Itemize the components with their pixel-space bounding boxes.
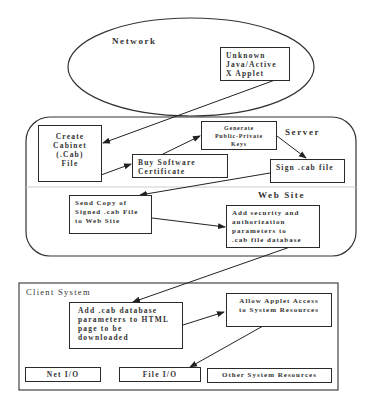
edge-add-cab-to-allow bbox=[183, 312, 224, 325]
node-generate-keys: Generate Public-Private Keys bbox=[201, 121, 277, 150]
node-send-copy: Send Copy of Signed .cab File to Web Sit… bbox=[69, 195, 152, 234]
node-other-resources: Other System Resources bbox=[207, 368, 332, 383]
server-label: Server bbox=[285, 127, 320, 137]
node-add-cab-params: Add .cab database parameters to HTML pag… bbox=[69, 302, 183, 349]
edge-allow-to-file-io bbox=[190, 326, 263, 367]
network-label: Network bbox=[112, 36, 157, 46]
node-allow-access: Allow Applet Access to System Resources bbox=[226, 293, 332, 327]
edge-generate-to-sign bbox=[277, 136, 306, 158]
edge-create-to-buy bbox=[101, 164, 131, 175]
node-buy-cert: Buy Software Certificate bbox=[132, 154, 228, 178]
client-system-label: Client System bbox=[26, 287, 91, 297]
website-label: Web Site bbox=[258, 190, 305, 200]
edge-send-to-add-security bbox=[152, 218, 225, 227]
node-add-security: Add security and authorization parameter… bbox=[226, 205, 320, 248]
node-sign-cab: Sign .cab file bbox=[270, 159, 345, 183]
edge-buy-to-generate bbox=[163, 136, 200, 154]
node-net-io: Net I/O bbox=[25, 367, 101, 382]
node-file-io: File I/O bbox=[119, 367, 201, 382]
node-create-cab: Create Cabinet (.Cab) File bbox=[38, 125, 102, 182]
node-unknown-applet: Unknown Java/Active X Applet bbox=[220, 47, 290, 81]
